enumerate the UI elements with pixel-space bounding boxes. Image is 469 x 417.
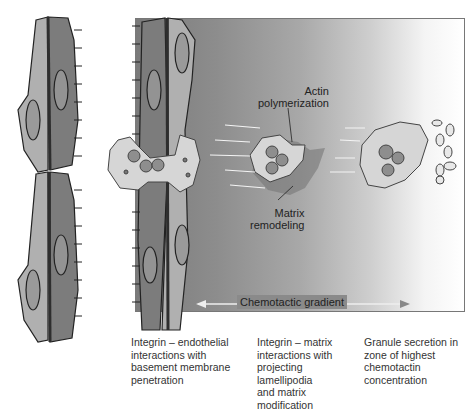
leukocyte-migrating [250, 135, 325, 195]
label-line: remodeling [250, 219, 304, 231]
caption-line: interactions with [131, 349, 230, 362]
leukocyte-secreting [360, 120, 456, 188]
caption-granule: Granule secretion in zone of highest che… [364, 336, 458, 386]
label-chemotactic-gradient: Chemotactic gradient [237, 295, 347, 309]
caption-line: concentration [364, 374, 458, 387]
caption-endothelial: Integrin – endothelial interactions with… [131, 336, 230, 386]
caption-line: projecting [257, 361, 332, 374]
caption-line: Integrin – matrix [257, 336, 332, 349]
endothelial-cell-left-bottom [18, 172, 78, 342]
label-matrix-remodeling: Matrix remodeling [250, 207, 304, 231]
caption-line: chemotactin [364, 361, 458, 374]
actin-leader-line [288, 108, 292, 142]
endothelial-cell-left-top [18, 17, 78, 172]
caption-line: Granule secretion in [364, 336, 458, 349]
caption-line: basement membrane [131, 361, 230, 374]
label-actin-polymerization: Actin polymerization [258, 85, 329, 109]
caption-matrix: Integrin – matrix interactions with proj… [257, 336, 332, 411]
label-line: polymerization [258, 97, 329, 109]
caption-line: interactions with [257, 349, 332, 362]
caption-line: and matrix [257, 386, 332, 399]
caption-line: lamellipodia [257, 374, 332, 387]
label-line: Actin [258, 85, 329, 97]
caption-line: Integrin – endothelial [131, 336, 230, 349]
caption-line: zone of highest [364, 349, 458, 362]
caption-line: penetration [131, 374, 230, 387]
caption-line: modification [257, 399, 332, 412]
label-line: Matrix [250, 207, 304, 219]
